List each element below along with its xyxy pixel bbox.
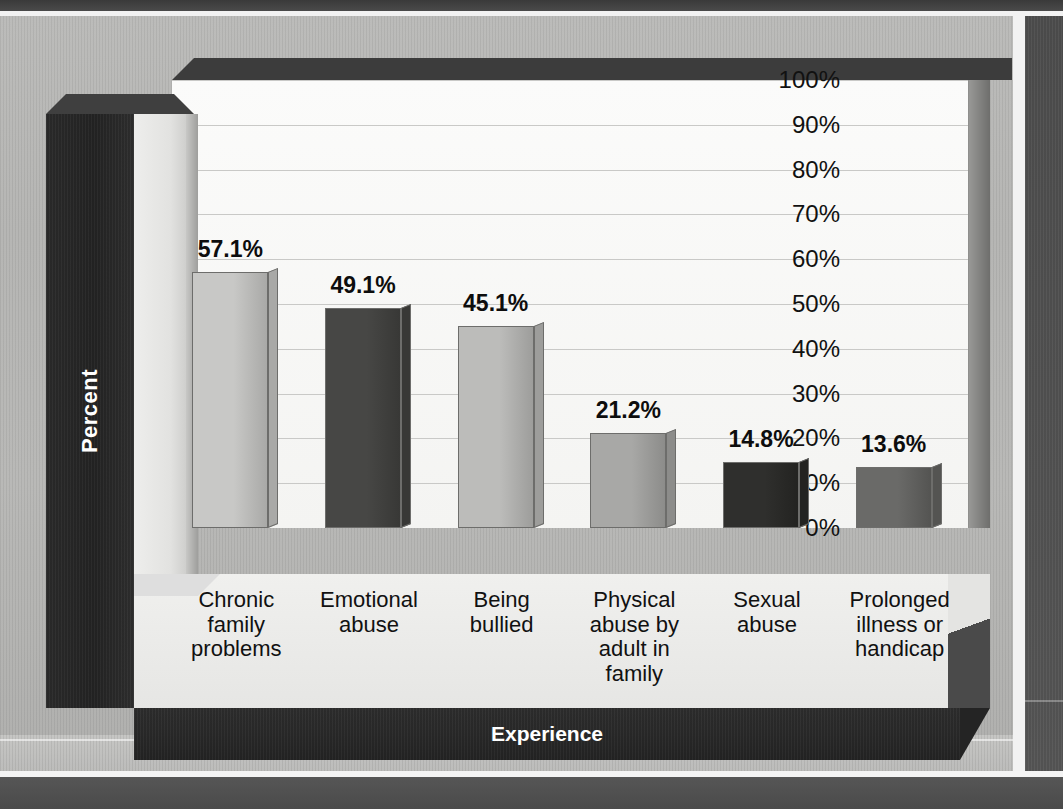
x-axis-category-label-line: adult in	[559, 637, 709, 662]
y-axis-top-bevel	[46, 94, 194, 114]
x-axis-category-label-line: abuse	[294, 613, 444, 638]
y-axis-tick-label: 80%	[792, 156, 840, 184]
bar-value-label: 57.1%	[150, 236, 310, 263]
bar-front-face	[458, 326, 534, 528]
y-axis-tick-label: 50%	[792, 290, 840, 318]
x-axis-category-label-line: Physical	[559, 588, 709, 613]
bar-side-face	[401, 304, 411, 528]
bar	[723, 462, 799, 528]
bar	[325, 308, 401, 528]
bar	[590, 433, 666, 528]
plot-wall-right-bevel	[968, 80, 990, 528]
bar-front-face	[590, 433, 666, 528]
bar	[192, 272, 268, 528]
bar-front-face	[856, 467, 932, 528]
plot-wall-top-bevel	[172, 58, 1012, 80]
y-axis-tick-label: 70%	[792, 200, 840, 228]
bar-value-label: 21.2%	[548, 397, 708, 424]
x-axis-category-label: Emotionalabuse	[294, 588, 444, 637]
x-axis-category-label-line: Being	[427, 588, 577, 613]
x-axis-category-label-line: Emotional	[294, 588, 444, 613]
bar-front-face	[192, 272, 268, 528]
y-axis-tick-label: 40%	[792, 335, 840, 363]
gridline	[172, 483, 968, 484]
x-axis-category-label-line: problems	[161, 637, 311, 662]
y-axis-title-text: Percent	[77, 369, 103, 453]
page-gutter	[1013, 16, 1025, 771]
bar-side-face	[268, 268, 278, 528]
scanned-page: Percent Experience 100%90%80%70%60%50%40…	[0, 0, 1063, 809]
x-axis-category-label-line: family	[161, 613, 311, 638]
x-axis-category-label-line: Sexual	[692, 588, 842, 613]
x-axis-category-label-line: abuse by	[559, 613, 709, 638]
gridline	[172, 214, 968, 215]
x-axis-category-label-line: abuse	[692, 613, 842, 638]
y-axis-tick-label: 60%	[792, 245, 840, 273]
x-axis-category-label-line: family	[559, 662, 709, 687]
x-axis-category-label-line: Prolonged	[825, 588, 975, 613]
y-axis-tick-lane	[134, 114, 186, 574]
page-bottom-dark-band	[0, 777, 1063, 809]
y-axis-tick-label: 0%	[805, 514, 840, 542]
bar-value-label: 13.6%	[814, 431, 974, 458]
x-axis-band-bevel	[960, 708, 990, 760]
bar-side-face	[799, 458, 809, 528]
page-top-dark-band	[0, 0, 1063, 11]
gridline	[172, 394, 968, 395]
gridline	[172, 125, 968, 126]
x-axis-category-label-line: Chronic	[161, 588, 311, 613]
bar-value-label: 45.1%	[416, 290, 576, 317]
bar-side-face	[666, 429, 676, 528]
x-axis-title: Experience	[134, 708, 960, 760]
bar	[458, 326, 534, 528]
y-axis-title: Percent	[46, 114, 134, 708]
bar-chart-3d: Percent Experience 100%90%80%70%60%50%40…	[46, 58, 990, 722]
x-axis-category-label-line: illness or	[825, 613, 975, 638]
gridline	[172, 170, 968, 171]
y-axis-tick-label: 30%	[792, 380, 840, 408]
x-axis-category-label: Chronicfamilyproblems	[161, 588, 311, 662]
facing-page-dark-panel	[1025, 16, 1063, 771]
bar-front-face	[723, 462, 799, 528]
y-axis-tick-label: 90%	[792, 111, 840, 139]
x-axis-category-label: Physicalabuse byadult infamily	[559, 588, 709, 687]
gridline	[172, 349, 968, 350]
x-axis-category-label: Beingbullied	[427, 588, 577, 637]
bar-front-face	[325, 308, 401, 528]
x-axis-category-label-line: handicap	[825, 637, 975, 662]
x-axis-title-text: Experience	[491, 722, 603, 746]
x-axis-category-label-line: bullied	[427, 613, 577, 638]
bar	[856, 467, 932, 528]
bar-side-face	[534, 322, 544, 528]
gridline	[172, 80, 968, 81]
bar-side-face	[932, 463, 942, 528]
x-axis-category-label: Sexualabuse	[692, 588, 842, 637]
x-axis-category-label: Prolongedillness orhandicap	[825, 588, 975, 662]
y-axis-tick-label: 100%	[779, 66, 840, 94]
facing-page-hairline	[1025, 700, 1063, 702]
